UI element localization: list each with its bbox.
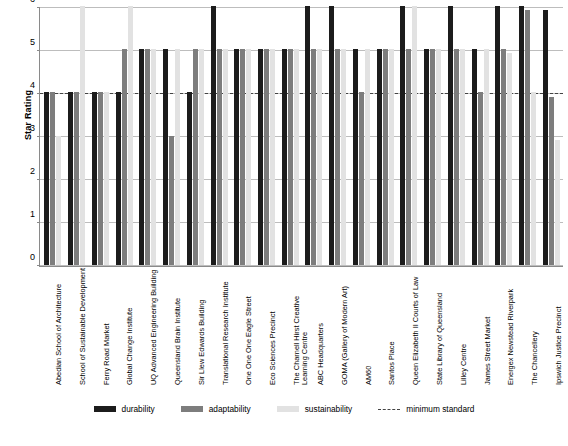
bar-durability[interactable] [211, 6, 216, 265]
bar-durability[interactable] [187, 92, 192, 265]
bar-durability[interactable] [139, 49, 144, 265]
bar-durability[interactable] [282, 49, 287, 265]
bar-adaptability[interactable] [193, 49, 198, 265]
bar-sustainability[interactable] [246, 49, 251, 265]
legend-item-durability[interactable]: durability [94, 404, 155, 414]
legend-item-dashed[interactable]: minimum standard [378, 404, 474, 414]
bar-sustainability[interactable] [199, 49, 204, 265]
bar-sustainability[interactable] [223, 49, 228, 265]
bar-sustainability[interactable] [412, 6, 417, 265]
bar-sustainability[interactable] [365, 49, 370, 265]
bar-group[interactable] [183, 8, 207, 265]
x-axis-label-slot: Queensland Brain Institute [159, 269, 183, 389]
bar-durability[interactable] [377, 49, 382, 265]
bar-adaptability[interactable] [335, 49, 340, 265]
bar-adaptability[interactable] [50, 92, 55, 265]
bar-group[interactable] [41, 8, 65, 265]
bar-durability[interactable] [258, 49, 263, 265]
bar-group[interactable] [397, 8, 421, 265]
bar-adaptability[interactable] [288, 49, 293, 265]
bar-sustainability[interactable] [341, 49, 346, 265]
bar-sustainability[interactable] [294, 49, 299, 265]
bar-adaptability[interactable] [74, 92, 79, 265]
bar-group[interactable] [492, 8, 516, 265]
bar-adaptability[interactable] [240, 49, 245, 265]
bar-sustainability[interactable] [531, 92, 536, 265]
x-axis-label-slot: School of Sustainable Development [64, 269, 88, 389]
bar-durability[interactable] [495, 6, 500, 265]
x-axis-label-slot: Energex Newstead Riverpark [493, 269, 517, 389]
x-axis-label: State Library of Queensland [436, 293, 444, 385]
bar-adaptability[interactable] [264, 49, 269, 265]
bar-group[interactable] [65, 8, 89, 265]
bar-durability[interactable] [543, 10, 548, 265]
bar-sustainability[interactable] [460, 49, 465, 265]
bar-adaptability[interactable] [525, 10, 530, 265]
legend-item-sustainability[interactable]: sustainability [277, 404, 353, 414]
bar-adaptability[interactable] [217, 49, 222, 265]
bar-sustainability[interactable] [270, 49, 275, 265]
bar-sustainability[interactable] [128, 6, 133, 265]
bar-sustainability[interactable] [317, 49, 322, 265]
bar-sustainability[interactable] [56, 136, 61, 266]
bar-adaptability[interactable] [478, 92, 483, 265]
bar-group[interactable] [302, 8, 326, 265]
bar-durability[interactable] [424, 49, 429, 265]
bar-group[interactable] [255, 8, 279, 265]
bar-group[interactable] [444, 8, 468, 265]
bar-group[interactable] [421, 8, 445, 265]
bar-group[interactable] [278, 8, 302, 265]
bar-sustainability[interactable] [484, 49, 489, 265]
legend-label: minimum standard [406, 404, 474, 414]
bar-adaptability[interactable] [454, 49, 459, 265]
bar-adaptability[interactable] [122, 49, 127, 265]
bar-adaptability[interactable] [501, 49, 506, 265]
bar-durability[interactable] [68, 92, 73, 265]
bar-adaptability[interactable] [430, 49, 435, 265]
bar-adaptability[interactable] [406, 49, 411, 265]
bar-group[interactable] [468, 8, 492, 265]
bar-adaptability[interactable] [383, 49, 388, 265]
bar-durability[interactable] [329, 6, 334, 265]
bar-durability[interactable] [163, 49, 168, 265]
legend-item-adaptability[interactable]: adaptability [181, 404, 251, 414]
bar-durability[interactable] [519, 6, 524, 265]
bar-adaptability[interactable] [311, 49, 316, 265]
bar-group[interactable] [539, 8, 563, 265]
bar-sustainability[interactable] [507, 53, 512, 265]
bar-sustainability[interactable] [151, 49, 156, 265]
bar-group[interactable] [136, 8, 160, 265]
bar-group[interactable] [160, 8, 184, 265]
bar-adaptability[interactable] [98, 92, 103, 265]
bar-adaptability[interactable] [359, 92, 364, 265]
bar-durability[interactable] [353, 49, 358, 265]
bar-group[interactable] [88, 8, 112, 265]
bar-group[interactable] [326, 8, 350, 265]
y-tick-mark-3 [37, 136, 40, 137]
bar-durability[interactable] [305, 6, 310, 265]
bar-sustainability[interactable] [436, 49, 441, 265]
bar-group[interactable] [516, 8, 540, 265]
bar-sustainability[interactable] [104, 92, 109, 265]
bar-durability[interactable] [234, 49, 239, 265]
bar-adaptability[interactable] [145, 49, 150, 265]
bar-durability[interactable] [44, 92, 49, 265]
bar-durability[interactable] [400, 6, 405, 265]
bar-sustainability[interactable] [175, 49, 180, 265]
bar-durability[interactable] [448, 6, 453, 265]
bar-durability[interactable] [92, 92, 97, 265]
bar-group[interactable] [112, 8, 136, 265]
x-axis-label: Sir Llew Edwards Building [198, 300, 206, 385]
bar-group[interactable] [207, 8, 231, 265]
bar-sustainability[interactable] [555, 140, 560, 265]
bar-group[interactable] [373, 8, 397, 265]
bar-durability[interactable] [116, 92, 121, 265]
bar-sustainability[interactable] [389, 49, 394, 265]
bar-adaptability[interactable] [549, 97, 554, 265]
bar-adaptability[interactable] [169, 136, 174, 266]
bar-group[interactable] [231, 8, 255, 265]
bar-durability[interactable] [472, 49, 477, 265]
bar-sustainability[interactable] [80, 6, 85, 265]
x-axis-label-slot: Queen Elizabeth II Courts of Law [397, 269, 421, 389]
bar-group[interactable] [350, 8, 374, 265]
